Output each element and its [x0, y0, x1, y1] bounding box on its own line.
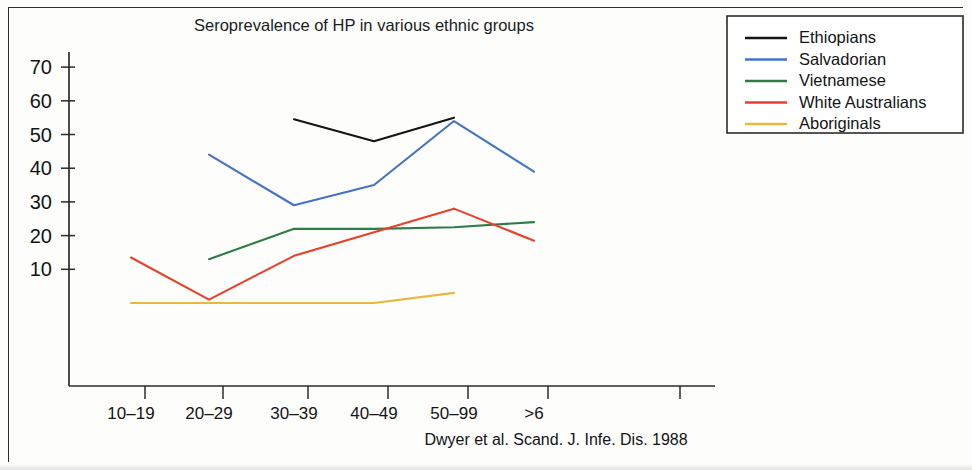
figure-container: Seroprevalence of HP in various ethnic g… — [0, 0, 972, 470]
data-series-group — [131, 118, 534, 303]
series-line-ethiopians — [294, 118, 454, 142]
x-axis-tick-label: 50–99 — [430, 404, 477, 423]
legend-label-ethiopians: Ethiopians — [799, 28, 876, 46]
line-chart: Seroprevalence of HP in various ethnic g… — [0, 0, 972, 470]
x-axis-tick-label: 40–49 — [350, 404, 397, 423]
x-axis-tick-label: 10–19 — [107, 404, 154, 423]
x-axis-tick-label: >6 — [524, 404, 543, 423]
x-axis-tick-label: 30–39 — [270, 404, 317, 423]
legend-label-white-australians: White Australians — [799, 93, 926, 111]
series-line-aboriginals — [131, 293, 454, 303]
legend-label-aboriginals: Aboriginals — [799, 114, 881, 132]
x-axis-tick-label: 20–29 — [185, 404, 232, 423]
y-axis-tick-label: 20 — [30, 225, 52, 247]
source-caption: Dwyer et al. Scand. J. Infe. Dis. 1988 — [424, 431, 687, 448]
x-axis-ticks — [145, 386, 680, 399]
legend-label-salvadorian: Salvadorian — [799, 50, 886, 68]
y-axis-tick-label: 50 — [30, 124, 52, 146]
y-axis-tick-label: 60 — [30, 90, 52, 112]
series-line-white-australians — [131, 209, 534, 300]
y-axis-tick-label: 10 — [30, 258, 52, 280]
y-axis-tick-label: 30 — [30, 191, 52, 213]
chart-title: Seroprevalence of HP in various ethnic g… — [194, 16, 534, 34]
legend-label-vietnamese: Vietnamese — [799, 71, 886, 89]
series-line-vietnamese — [209, 222, 534, 259]
y-axis-tick-label: 70 — [30, 56, 52, 78]
series-line-salvadorian — [209, 121, 534, 205]
x-axis-tick-labels: 10–1920–2930–3940–4950–99>6 — [107, 404, 543, 423]
y-axis-tick-label: 40 — [30, 157, 52, 179]
page-edge-shadow — [0, 464, 972, 470]
